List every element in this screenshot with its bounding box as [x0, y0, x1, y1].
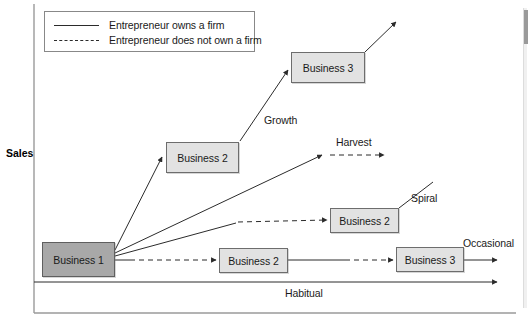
flow-label-spiral: Spiral — [411, 192, 437, 204]
scrollbar-thumb[interactable] — [524, 10, 528, 44]
legend-item-does-not-own: Entrepreneur does not own a firm — [54, 33, 262, 47]
flow-label-growth: Growth — [264, 114, 297, 126]
diagram-canvas: Sales Entrepreneur owns a firm Entrepren… — [0, 0, 531, 323]
node-business-3-growth: Business 3 — [291, 52, 365, 83]
legend-solid-line-icon — [54, 25, 99, 26]
legend: Entrepreneur owns a firm Entrepreneur do… — [44, 11, 255, 52]
legend-item-label: Entrepreneur does not own a firm — [109, 34, 262, 46]
y-axis-label: Sales — [6, 147, 33, 159]
node-business-1: Business 1 — [42, 242, 115, 277]
legend-item-label: Entrepreneur owns a firm — [109, 19, 224, 31]
flow-label-habitual: Habitual — [285, 287, 323, 299]
legend-dashed-line-icon — [54, 40, 99, 41]
flow-label-occasional: Occasional — [463, 237, 514, 249]
flow-label-harvest: Harvest — [336, 136, 371, 148]
vertical-scrollbar[interactable] — [523, 8, 527, 308]
legend-item-owns: Entrepreneur owns a firm — [54, 18, 224, 32]
node-business-2-growth: Business 2 — [166, 142, 239, 173]
node-business-2-spiral: Business 2 — [330, 208, 399, 233]
node-business-3-habitual: Business 3 — [396, 247, 464, 272]
node-business-2-habitual: Business 2 — [219, 248, 288, 273]
